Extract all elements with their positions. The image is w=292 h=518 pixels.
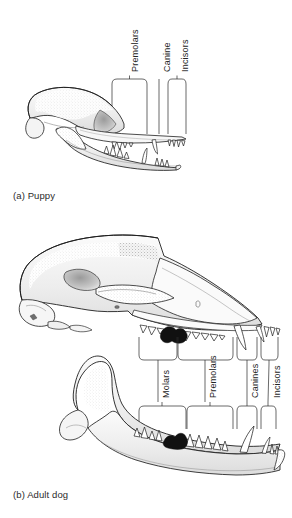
puppy-cranium	[26, 87, 124, 138]
dentition-illustration	[0, 0, 292, 518]
adult-upper-incisors	[256, 326, 280, 342]
adult-label-canines: Canines	[250, 364, 260, 398]
puppy-label-incisors: Incisors	[180, 39, 190, 72]
adult-label-premolars: Premolars	[208, 355, 218, 398]
adult-label-incisors: Incisors	[272, 365, 282, 398]
adult-bracket-lower-premolars	[187, 406, 233, 429]
caption-puppy: (a) Puppy	[13, 190, 55, 201]
adult-upper-carnassial	[160, 327, 187, 344]
figure-dog-dentition: Premolars Canine Incisors Molars Premola…	[0, 0, 292, 518]
puppy-label-canine: Canine	[162, 42, 172, 72]
puppy-label-premolars: Premolars	[130, 29, 140, 72]
caption-adult-dog: (b) Adult dog	[13, 489, 68, 500]
adult-label-molars: Molars	[161, 370, 171, 398]
panel-adult-dog	[19, 235, 285, 475]
panel-puppy	[26, 76, 186, 171]
puppy-bracket-incisors	[168, 76, 186, 135]
adult-bracket-lower-incisors	[261, 406, 276, 429]
